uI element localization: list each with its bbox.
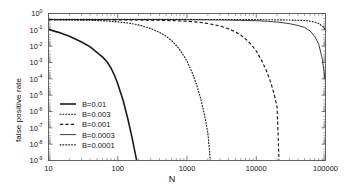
legend-label: B=0.003: [82, 110, 111, 119]
y-tick-label: 100: [31, 8, 42, 18]
legend-label: B=0.001: [82, 120, 111, 129]
curve-B-0-0003: [49, 19, 326, 82]
y-tick-label: 10-6: [30, 106, 43, 116]
chart-legend: B=0.01B=0.003B=0.001B=0.0003B=0.0001: [60, 100, 115, 150]
plot-area: 10010-110-210-310-410-510-610-710-810-9 …: [0, 0, 344, 189]
legend-label: B=0.0003: [82, 131, 115, 140]
y-tick-label: 10-2: [30, 41, 43, 51]
x-tick-label: 1000: [179, 164, 196, 173]
y-axis-label: false positive rate: [14, 78, 23, 142]
y-tick-label: 10-1: [30, 24, 43, 34]
x-tick-label: 10000: [246, 164, 267, 173]
y-tick-label: 10-9: [30, 155, 43, 165]
y-tick-label: 10-5: [30, 90, 43, 100]
legend-label: B=0.01: [82, 100, 106, 109]
curve-B-0-0001: [49, 19, 326, 29]
y-tick-label: 10-8: [30, 139, 43, 149]
x-axis-label: N: [0, 174, 344, 184]
x-tick-label: 10: [44, 164, 52, 173]
y-tick-label: 10-4: [30, 73, 43, 83]
curve-B-0-003: [49, 20, 212, 176]
y-tick-label: 10-3: [30, 57, 43, 67]
x-tick-label: 100: [111, 164, 124, 173]
legend-label: B=0.0001: [82, 141, 115, 150]
y-tick-label: 10-7: [30, 122, 43, 132]
y-axis-ticks: 10010-110-210-310-410-510-610-710-810-9: [30, 8, 326, 165]
x-tick-label: 100000: [313, 164, 338, 173]
chart-figure: 10010-110-210-310-410-510-610-710-810-9 …: [0, 0, 344, 189]
